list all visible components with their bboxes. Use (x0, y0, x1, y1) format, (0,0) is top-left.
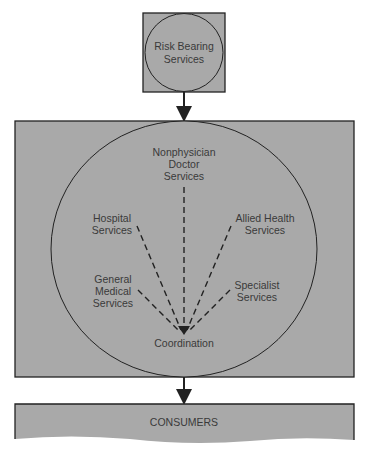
risk-bearing-label-1: Risk Bearing (154, 40, 214, 52)
diagram-canvas: Risk Bearing Services Nonphysician Docto… (0, 0, 368, 451)
risk-bearing-node: Risk Bearing Services (143, 13, 225, 92)
general-label-1: General (94, 273, 131, 285)
specialist-label-1: Specialist (235, 279, 280, 291)
nonphysician-label-3: Services (164, 170, 204, 182)
specialist-label-2: Services (237, 291, 277, 303)
consumers-label: CONSUMERS (150, 416, 218, 428)
general-label-2: Medical (95, 285, 131, 297)
coordination-label: Coordination (154, 337, 214, 349)
hospital-label-1: Hospital (93, 212, 131, 224)
allied-label-2: Services (245, 224, 285, 236)
nonphysician-label-1: Nonphysician (152, 146, 215, 158)
nonphysician-label-2: Doctor (169, 158, 200, 170)
risk-bearing-label-2: Services (164, 53, 204, 65)
hospital-label-2: Services (92, 224, 132, 236)
consumers-node: CONSUMERS (15, 404, 354, 443)
allied-label-1: Allied Health (236, 212, 295, 224)
general-label-3: Services (93, 297, 133, 309)
